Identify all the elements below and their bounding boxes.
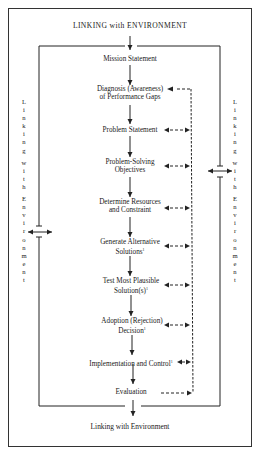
step-label-line2: and Constraint [99,206,161,214]
step-label-line2: Solutions [115,248,142,256]
step-label-line1: Determine Resources [99,198,161,206]
step-label-line1: Generate Alternative [100,238,160,246]
step-label-line1: Diagnosis (Awareness) [97,85,163,93]
step-label-line1: Adoption (Rejection) [101,317,162,325]
step-label-line1: Test Most Plausible [103,277,160,285]
step-label-line1: Problem-Solving [105,158,154,166]
step-label-line2: Solution(s) [114,287,146,295]
step-label: Implementation and Control [89,360,170,368]
top-label: LINKING with ENVIRONMENT [73,21,187,30]
inner-frame-top-right [137,46,220,166]
step-label-line2: of Performance Gaps [97,93,163,101]
step-evaluation: Evaluation [115,388,146,396]
step-label: Evaluation [115,388,146,396]
footnote-marker: 1 [171,359,173,364]
right-side-label: Linking with Environment [230,98,240,284]
bottom-label: Linking with Environment [91,422,170,431]
footnote-marker: 1 [143,247,145,252]
step-label-line2: Objectives [105,166,154,174]
step-generate-alternatives: Generate Alternative Solutions1 [100,238,160,257]
step-problem-solving-objectives: Problem-Solving Objectives [105,158,154,175]
step-problem-statement: Problem Statement [103,126,158,134]
problem-solving-diagram: LINKING with ENVIRONMENT Mission Stateme… [0,0,260,454]
feedback-arrows [161,130,186,393]
feedback-loop-line [191,89,193,393]
step-determine-resources: Determine Resources and Constraint [99,198,161,215]
step-label: Mission Statement [103,55,157,63]
step-label-line2: Decision [118,327,144,335]
step-diagnosis: Diagnosis (Awareness) of Performance Gap… [97,85,163,102]
left-side-label: Linking with Environment [19,98,29,284]
footnote-marker: 1 [144,326,146,331]
footnote-marker: 1 [146,286,148,291]
diagram-lines [0,0,260,454]
step-mission-statement: Mission Statement [103,55,157,63]
step-label: Problem Statement [103,126,158,134]
step-adoption-decision: Adoption (Rejection) Decision1 [101,317,162,336]
step-implementation-control: Implementation and Control1 [89,358,172,368]
step-test-solutions: Test Most Plausible Solution(s)1 [103,277,160,296]
